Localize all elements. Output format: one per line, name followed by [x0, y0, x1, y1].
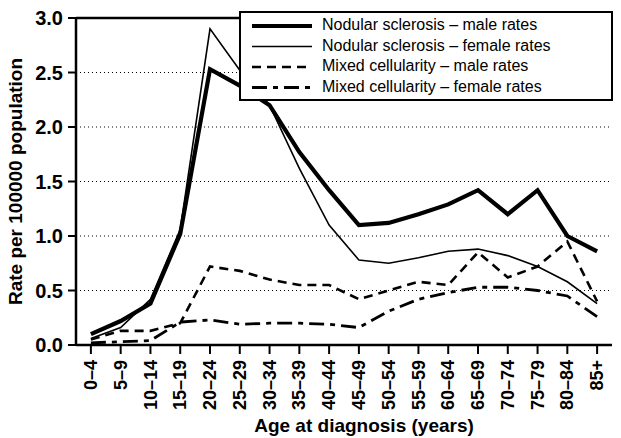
series-line-0 — [91, 69, 597, 334]
y-tick-label: 1.5 — [35, 171, 63, 193]
legend-label-0: Nodular sclerosis – male rates — [322, 16, 537, 33]
x-tick-label: 0–4 — [81, 360, 101, 390]
x-tick-label: 10–14 — [141, 360, 161, 410]
series-line-3 — [91, 287, 597, 343]
x-tick-label: 80–84 — [557, 360, 577, 410]
x-tick-label: 20–24 — [200, 360, 220, 410]
y-axis-title: Rate per 100000 population — [5, 58, 26, 305]
x-tick-label: 40–44 — [319, 360, 339, 410]
y-tick-label: 1.0 — [35, 225, 63, 247]
y-tick-label: 3.0 — [35, 7, 63, 29]
x-axis-title: Age at diagnosis (years) — [254, 415, 474, 436]
x-tick-label: 65–69 — [468, 360, 488, 410]
legend-label-3: Mixed cellularity – female rates — [322, 78, 542, 95]
y-tick-label: 2.0 — [35, 116, 63, 138]
x-tick-label: 35–39 — [289, 360, 309, 410]
x-tick-label: 5–9 — [111, 360, 131, 390]
x-tick-label: 15–19 — [170, 360, 190, 410]
y-axis: 0.00.51.01.52.02.53.0Rate per 100000 pop… — [5, 7, 76, 356]
x-tick-label: 45–49 — [349, 360, 369, 410]
x-tick-label: 50–54 — [379, 360, 399, 410]
x-tick-label: 25–29 — [230, 360, 250, 410]
line-chart: 0.00.51.01.52.02.53.0Rate per 100000 pop… — [0, 0, 621, 438]
x-tick-label: 85+ — [587, 360, 607, 391]
x-tick-label: 75–79 — [528, 360, 548, 410]
legend-label-1: Nodular sclerosis – female rates — [322, 37, 551, 54]
y-tick-label: 2.5 — [35, 62, 63, 84]
chart-figure: 0.00.51.01.52.02.53.0Rate per 100000 pop… — [0, 0, 621, 438]
legend: Nodular sclerosis – male ratesNodular sc… — [240, 12, 612, 100]
legend-label-2: Mixed cellularity – male rates — [322, 57, 528, 74]
x-tick-label: 70–74 — [498, 360, 518, 410]
y-tick-label: 0.5 — [35, 280, 63, 302]
x-tick-label: 60–64 — [438, 360, 458, 410]
x-tick-label: 30–34 — [260, 360, 280, 410]
y-tick-label: 0.0 — [35, 334, 63, 356]
x-tick-label: 55–59 — [409, 360, 429, 410]
x-axis: 0–45–910–1415–1920–2425–2930–3435–3940–4… — [81, 345, 607, 436]
